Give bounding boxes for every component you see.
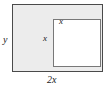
inner-square: [53, 19, 101, 67]
geometry-figure: y 2x x x: [0, 0, 112, 89]
inner-top-label: x: [59, 17, 63, 26]
outer-rectangle: [12, 4, 103, 72]
inner-left-label: x: [43, 34, 47, 43]
outer-height-label: y: [3, 35, 7, 45]
outer-width-label: 2x: [47, 75, 56, 85]
